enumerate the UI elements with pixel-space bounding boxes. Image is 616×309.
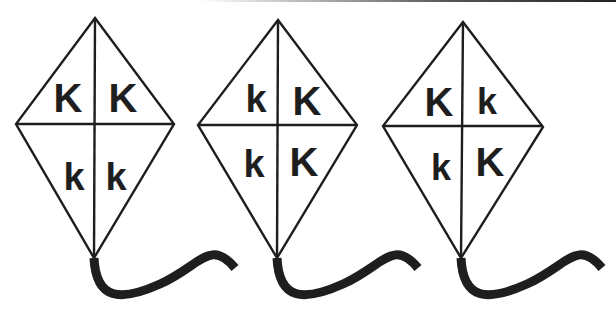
kite-2-spine <box>277 20 278 258</box>
kite-1-tail <box>94 255 235 295</box>
kite-1-bottom-right: k <box>105 156 127 198</box>
kite-2-bottom-left: k <box>243 143 265 185</box>
kite-2-tail <box>277 255 418 295</box>
kite-3-bottom-right: K <box>476 140 505 184</box>
kite-1-bottom-left: k <box>63 156 85 198</box>
kite-2-bottom-right: K <box>290 140 319 184</box>
kite-3-bottom-left: k <box>431 147 452 188</box>
kite-2-top-right: K <box>293 79 322 123</box>
kite-1-top-left: K <box>54 76 83 120</box>
kites-diagram: K K k k k K k K K k k K <box>0 0 616 309</box>
kite-2-top-left: k <box>245 78 267 120</box>
kite-3-tail <box>461 255 602 295</box>
kite-3-top-right: k <box>477 81 498 122</box>
kite-1-top-right: K <box>109 76 138 120</box>
kite-3-top-left: K <box>425 80 454 124</box>
kite-1-spine <box>94 18 95 258</box>
